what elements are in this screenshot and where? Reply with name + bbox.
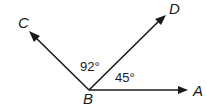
label-a: A — [192, 82, 203, 99]
label-c: C — [18, 14, 29, 31]
label-b: B — [83, 90, 93, 107]
angle-diagram: C D A B 92° 45° — [0, 0, 206, 108]
label-d: D — [169, 0, 180, 17]
angle-cbd-measure: 92° — [80, 59, 100, 74]
angle-dba-measure: 45° — [115, 70, 135, 85]
arrowhead-a-icon — [178, 86, 188, 94]
